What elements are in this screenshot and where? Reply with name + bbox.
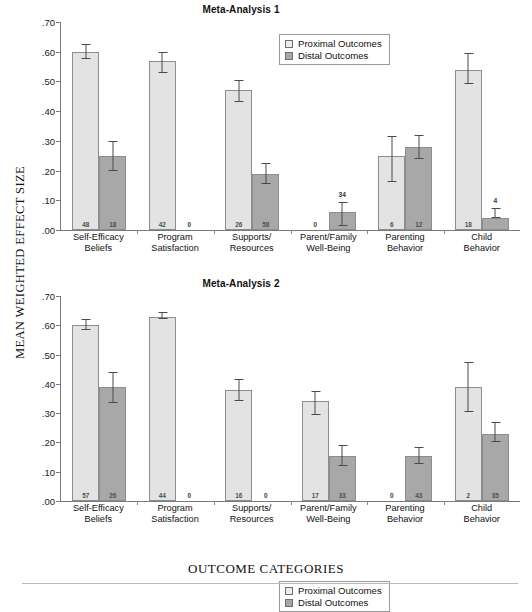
category-label: ParentingBehavior (367, 503, 444, 526)
y-axis-tick (56, 81, 61, 82)
error-bar (265, 163, 266, 184)
legend-swatch-distal-icon (285, 599, 293, 607)
y-axis-tick (56, 200, 61, 201)
error-bar (468, 53, 469, 84)
category-label: ProgramSatisfaction (137, 232, 214, 255)
y-axis-tick-label: .10 (42, 466, 55, 477)
category-label-line2: Behavior (443, 514, 520, 525)
category-label-line1: Parent/Family (290, 503, 367, 514)
bar-slot-distal: 0 (176, 22, 203, 230)
category-label: ProgramSatisfaction (137, 503, 214, 526)
bar-slot-distal: 58 (252, 22, 279, 230)
error-bar-cap-bottom (388, 181, 397, 182)
legend-label-proximal: Proximal Outcomes (298, 38, 382, 49)
category-label: Self-EfficacyBeliefs (60, 232, 137, 255)
error-bar-cap-bottom (415, 463, 424, 464)
category-label-line2: Well-Being (290, 514, 367, 525)
bar-proximal[interactable] (149, 61, 176, 230)
bar-pair: 184 (444, 22, 521, 230)
category-label-line2: Beliefs (60, 243, 137, 254)
bar-proximal[interactable] (302, 401, 329, 501)
y-axis-tick-label: .70 (42, 17, 55, 28)
y-axis-tick (56, 355, 61, 356)
error-bar-cap-bottom (464, 83, 473, 84)
y-axis-tick (56, 413, 61, 414)
bar-slot-proximal: 0 (378, 296, 405, 501)
error-bar (238, 379, 239, 401)
error-bar-cap-top (82, 319, 91, 320)
bar-count-label: 26 (99, 493, 126, 499)
bar-proximal[interactable] (455, 70, 482, 230)
y-axis-tick-label: .20 (42, 437, 55, 448)
category-label-line2: Beliefs (60, 514, 137, 525)
y-axis-tick-label: .00 (42, 496, 55, 507)
y-axis-tick-label: .20 (42, 165, 55, 176)
error-bar-cap-bottom (338, 465, 347, 466)
bar-count-label: 0 (176, 493, 203, 499)
legend-label-proximal: Proximal Outcomes (298, 585, 382, 596)
y-axis-tick (56, 472, 61, 473)
error-bar-cap-bottom (464, 411, 473, 412)
bar-count-label: 43 (405, 493, 432, 499)
bar-proximal[interactable] (225, 90, 252, 230)
category-label-line1: Parent/Family (290, 232, 367, 243)
category-label: ChildBehavior (443, 232, 520, 255)
bar-proximal[interactable] (72, 52, 99, 230)
bar-group: 235 (444, 296, 521, 501)
y-axis-tick (56, 296, 61, 297)
bar-pair: 420 (138, 22, 215, 230)
category-label-line2: Resources (213, 243, 290, 254)
y-axis-tick (56, 325, 61, 326)
y-axis-tick (56, 52, 61, 53)
error-bar-cap-top (491, 422, 500, 423)
bar-distal[interactable] (405, 147, 432, 230)
error-bar (418, 447, 419, 465)
bar-count-label: 17 (302, 493, 329, 499)
category-label: ParentingBehavior (367, 232, 444, 255)
bar-count-label: 44 (149, 493, 176, 499)
error-bar (162, 52, 163, 73)
chart-panel-meta-analysis-1: Meta-Analysis 1 48184202658034612184 .70… (26, 4, 526, 272)
y-axis-tick (56, 442, 61, 443)
panel-2-title: Meta-Analysis 2 (26, 278, 456, 289)
category-label-line1: Program (137, 232, 214, 243)
bar-proximal[interactable] (225, 390, 252, 501)
error-bar-cap-top (82, 44, 91, 45)
error-bar (391, 136, 392, 182)
category-label: Supports/Resources (213, 232, 290, 255)
error-bar-cap-top (158, 52, 167, 53)
plot-area-2: 57264401601733043235 .70.60.50.40.30.20.… (60, 296, 520, 502)
category-label-line2: Behavior (367, 243, 444, 254)
category-label-line1: Self-Efficacy (60, 232, 137, 243)
bar-count-label: 42 (149, 222, 176, 228)
bar-proximal[interactable] (149, 317, 176, 502)
error-bar (315, 391, 316, 414)
error-bar (342, 445, 343, 466)
error-bar-cap-top (415, 135, 424, 136)
category-label-line1: Supports/ (213, 232, 290, 243)
error-bar-cap-bottom (235, 400, 244, 401)
error-bar (495, 422, 496, 443)
bar-distal[interactable] (99, 387, 126, 501)
bar-pair: 235 (444, 296, 521, 501)
error-bar-cap-bottom (262, 183, 271, 184)
bar-group: 4818 (61, 22, 138, 230)
bar-pair: 043 (367, 296, 444, 501)
error-bar-cap-top (235, 379, 244, 380)
category-label-line2: Satisfaction (137, 514, 214, 525)
error-bar-cap-top (262, 163, 271, 164)
y-axis-tick-label: .50 (42, 76, 55, 87)
bar-count-label-above: 4 (482, 198, 509, 205)
bar-slot-distal: 18 (99, 22, 126, 230)
bar-count-label: 12 (405, 222, 432, 228)
bar-distal[interactable] (482, 218, 509, 230)
bar-proximal[interactable] (72, 325, 99, 501)
bar-count-label: 26 (225, 222, 252, 228)
category-label-line1: Parenting (367, 503, 444, 514)
error-bar-cap-top (338, 445, 347, 446)
bar-group: 160 (214, 296, 291, 501)
error-bar-cap-top (338, 202, 347, 203)
y-axis-title-wrap: MEAN WEIGHTED EFFECT SIZE (0, 0, 26, 520)
bar-distal[interactable] (482, 434, 509, 501)
y-axis-tick-label: .30 (42, 408, 55, 419)
